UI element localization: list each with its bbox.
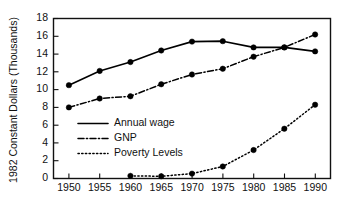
x-tick-label: 1980 [242,181,266,193]
data-point [128,173,133,178]
data-point [312,102,317,107]
data-point [251,147,256,152]
legend-label: Poverty Levels [114,146,183,158]
y-tick-label: 0 [42,171,48,183]
data-point [312,49,317,54]
data-point [159,48,164,53]
data-point [66,82,71,87]
y-tick-label: 4 [42,136,48,148]
data-point [251,45,256,50]
data-point [282,45,287,50]
y-tick-label: 10 [36,82,48,94]
data-point [66,105,71,110]
y-tick-label: 12 [36,65,48,77]
data-point [159,82,164,87]
y-tick-label: 18 [36,11,48,23]
data-point [189,72,194,77]
y-tick-label: 6 [42,118,48,130]
data-point [220,38,225,43]
line-chart-canvas: 1982 Constant Dollars (Thousands) 0 2 4 [0,0,346,205]
chart-background [0,0,346,205]
chart-figure: 1982 Constant Dollars (Thousands) 0 2 4 [0,0,346,205]
data-point [282,126,287,131]
data-point [251,54,256,59]
x-tick-label: 1955 [88,181,112,193]
data-point [97,96,102,101]
x-tick-label: 1985 [273,181,297,193]
data-point [189,171,194,176]
data-point [220,66,225,71]
data-point [128,59,133,64]
y-axis-title: 1982 Constant Dollars (Thousands) [7,17,19,183]
x-tick-label: 1975 [211,181,235,193]
data-point [128,94,133,99]
y-tick-label: 16 [36,29,48,41]
data-point [189,39,194,44]
data-point [97,68,102,73]
legend-label: Annual wage [114,116,175,128]
legend-label: GNP [114,131,137,143]
x-tick-label: 1960 [119,181,143,193]
data-point [312,32,317,37]
y-tick-label: 2 [42,153,48,165]
data-point [220,164,225,169]
x-tick-label: 1950 [57,181,81,193]
data-point [159,174,164,179]
x-tick-label: 1970 [180,181,204,193]
y-tick-label: 14 [36,47,48,59]
x-tick-label: 1990 [304,181,328,193]
y-tick-label: 8 [42,100,48,112]
x-tick-label: 1965 [150,181,174,193]
